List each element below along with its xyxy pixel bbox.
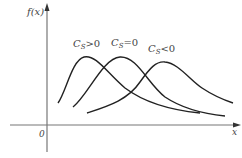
label-cs-zero: CS=0 (111, 37, 138, 50)
label-cs-negative: CS<0 (148, 43, 175, 56)
skewness-chart: f(x) 0 x CS>0 CS=0 CS<0 (0, 0, 242, 158)
chart-canvas: f(x) 0 x CS>0 CS=0 CS<0 (0, 0, 242, 158)
x-axis-label: x (232, 127, 237, 137)
label-cs-positive: CS>0 (73, 38, 100, 51)
y-axis-arrow-icon (45, 3, 50, 11)
curve-cs-zero (73, 57, 225, 116)
y-axis-label: f(x) (26, 6, 44, 17)
origin-label: 0 (39, 129, 45, 139)
